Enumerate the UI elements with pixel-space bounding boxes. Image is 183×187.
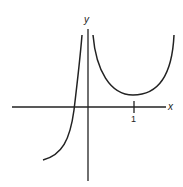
graph-canvas	[0, 0, 183, 187]
function-graph: y x 1	[0, 0, 183, 187]
y-axis-label: y	[84, 14, 89, 25]
right-branch-curve	[93, 35, 174, 95]
x-axis-label: x	[168, 101, 173, 112]
x-tick-label-1: 1	[131, 114, 136, 124]
left-branch-curve	[43, 35, 82, 160]
